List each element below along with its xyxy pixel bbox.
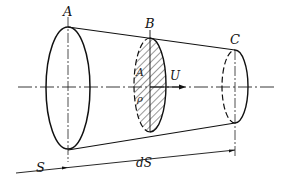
velocity-arrowhead-icon bbox=[179, 85, 186, 90]
label-section-b: B bbox=[144, 16, 155, 31]
label-increment: dS bbox=[136, 156, 152, 170]
label-section-c: C bbox=[230, 32, 240, 47]
section-c-front-arc bbox=[235, 50, 248, 123]
label-section-a: A bbox=[62, 4, 72, 19]
stream-tube-diagram: A B C A ρ U S dS bbox=[0, 0, 291, 183]
section-c-back-arc bbox=[222, 50, 235, 123]
label-velocity: U bbox=[170, 69, 181, 83]
label-density: ρ bbox=[136, 93, 143, 104]
dimension-arrow-right-icon bbox=[229, 150, 235, 153]
label-area: A bbox=[135, 66, 144, 79]
label-position: S bbox=[36, 160, 45, 175]
dimension-line bbox=[16, 150, 235, 173]
